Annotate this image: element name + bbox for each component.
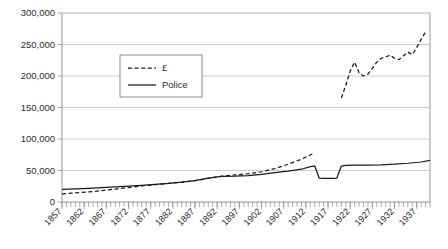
- x-axis-tick-label: 1857: [42, 206, 63, 227]
- x-axis-tick-label: 1897: [220, 206, 241, 227]
- series-group: [62, 32, 430, 194]
- x-axis-tick-label: 1877: [131, 206, 152, 227]
- x-axis-tick-label: 1937: [397, 206, 418, 227]
- x-axis-tick-label: 1902: [242, 206, 263, 227]
- series-line-pounds: [341, 32, 425, 98]
- gridlines-group: [62, 13, 430, 171]
- legend-box: [120, 55, 202, 97]
- x-axis-tick-label: 1892: [197, 206, 218, 227]
- chart-legend: £Police: [120, 55, 202, 97]
- x-axis-tick-label: 1907: [264, 206, 285, 227]
- x-axis-group: 1857186218671872187718821887189218971902…: [42, 202, 430, 228]
- line-chart: 050,000100,000150,000200,000250,000300,0…: [0, 0, 448, 249]
- y-axis-tick-label: 200,000: [21, 70, 55, 81]
- y-axis-tick-label: 150,000: [21, 102, 55, 113]
- series-line-police: [62, 160, 430, 189]
- x-axis-tick-label: 1867: [87, 206, 108, 227]
- chart-container: 050,000100,000150,000200,000250,000300,0…: [0, 0, 448, 249]
- x-axis-tick-label: 1882: [153, 206, 174, 227]
- y-axis-tick-label: 300,000: [21, 7, 55, 18]
- legend-label: Police: [162, 79, 188, 90]
- x-axis-tick-label: 1927: [353, 206, 374, 227]
- x-axis-tick-label: 1862: [64, 206, 85, 227]
- y-axis-tick-label: 250,000: [21, 39, 55, 50]
- legend-label: £: [162, 62, 168, 73]
- x-axis-tick-label: 1917: [308, 206, 329, 227]
- y-axis-tick-label: 100,000: [21, 133, 55, 144]
- x-axis-tick-label: 1887: [175, 206, 196, 227]
- y-axis-tick-label: 50,000: [26, 165, 55, 176]
- x-axis-tick-label: 1932: [375, 206, 396, 227]
- y-axis-group: 050,000100,000150,000200,000250,000300,0…: [21, 7, 62, 207]
- x-axis-tick-label: 1912: [286, 206, 307, 227]
- x-axis-tick-label: 1872: [109, 206, 130, 227]
- x-axis-tick-label: 1922: [330, 206, 351, 227]
- y-axis-tick-label: 0: [50, 196, 55, 207]
